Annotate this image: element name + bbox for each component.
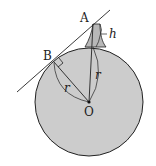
label-h: h (109, 27, 117, 41)
label-B: B (43, 49, 52, 63)
tangent-diagram: A B O h r r (0, 0, 156, 166)
tower-shape (85, 24, 106, 47)
label-O: O (84, 105, 94, 119)
label-A: A (79, 11, 89, 25)
center-point (87, 100, 90, 103)
